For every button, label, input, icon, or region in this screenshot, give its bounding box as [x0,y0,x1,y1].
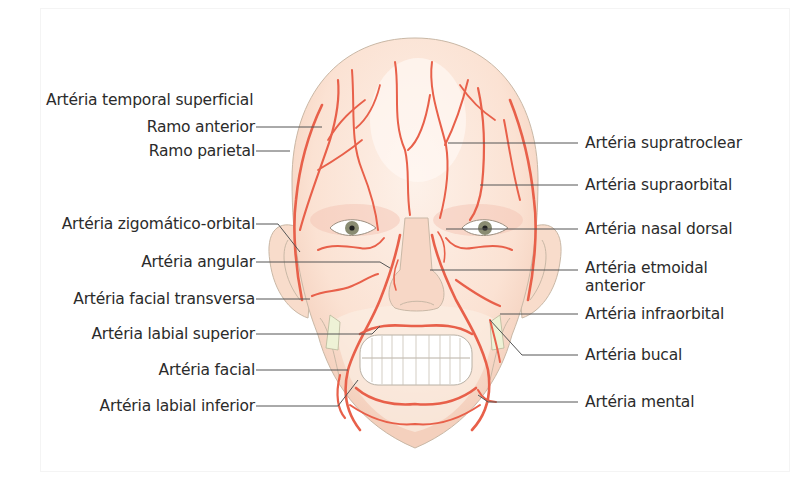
label-line-1: Artéria etmoidal [585,259,708,277]
label-arteria-facial-transversa: Artéria facial transversa [73,290,255,308]
label-arteria-supraorbital: Artéria supraorbital [585,176,732,194]
label-arteria-zigomatico-orbital: Artéria zigomático-orbital [62,215,255,233]
label-arteria-labial-inferior: Artéria labial inferior [100,397,255,415]
label-arteria-facial: Artéria facial [159,361,255,379]
label-arteria-labial-superior: Artéria labial superior [91,325,255,343]
label-line-2: anterior [585,277,708,295]
label-arteria-infraorbital: Artéria infraorbital [585,305,724,323]
label-arteria-temporal-superficial: Artéria temporal superficial [46,91,253,109]
label-arteria-bucal: Artéria bucal [585,346,682,364]
label-arteria-nasal-dorsal: Artéria nasal dorsal [585,220,732,238]
label-ramo-anterior: Ramo anterior [147,118,255,136]
label-arteria-supratroclear: Artéria supratroclear [585,134,742,152]
label-arteria-mental: Artéria mental [585,393,694,411]
label-ramo-parietal: Ramo parietal [149,142,255,160]
label-arteria-etmoidal-anterior: Artéria etmoidal anterior [585,259,708,295]
teeth [360,335,472,385]
label-arteria-angular: Artéria angular [141,253,255,271]
